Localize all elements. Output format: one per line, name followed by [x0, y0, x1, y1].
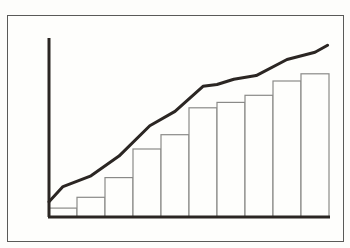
bar	[217, 102, 245, 217]
bar	[301, 74, 329, 217]
bar	[189, 108, 217, 217]
bar-series	[49, 74, 329, 217]
chart-plot	[0, 0, 350, 248]
bar	[133, 149, 161, 217]
bar	[105, 178, 133, 217]
bar	[161, 135, 189, 217]
bar	[245, 95, 273, 217]
bar	[273, 81, 301, 217]
bar	[77, 197, 105, 217]
